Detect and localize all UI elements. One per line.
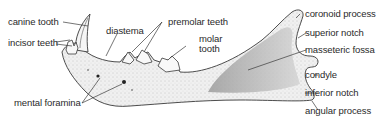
mandible-diagram: canine tooth incisor teeth diastema prem…	[0, 0, 384, 122]
label-canine-tooth: canine tooth	[8, 17, 59, 27]
label-incisor-teeth: incisor teeth	[8, 38, 58, 48]
label-premolar-teeth: premolar teeth	[168, 17, 228, 27]
bone-speck	[131, 89, 133, 91]
label-coronoid-process: coronoid process	[305, 9, 376, 19]
label-inferior-notch: inferior notch	[305, 88, 359, 98]
label-diastema: diastema	[106, 26, 144, 36]
label-molar-tooth-line2: tooth	[199, 44, 220, 54]
bone-speck	[87, 69, 89, 71]
label-condyle: condyle	[305, 70, 337, 80]
label-superior-notch: superior notch	[305, 28, 364, 38]
label-angular-process: angular process	[305, 106, 371, 116]
mental-foramen-1	[96, 74, 99, 77]
incisor-teeth-shape	[66, 40, 78, 54]
label-mental-foramina: mental foramina	[14, 98, 81, 108]
label-masseteric-fossa: masseteric fossa	[305, 45, 375, 55]
mental-foramen-2	[122, 80, 126, 84]
